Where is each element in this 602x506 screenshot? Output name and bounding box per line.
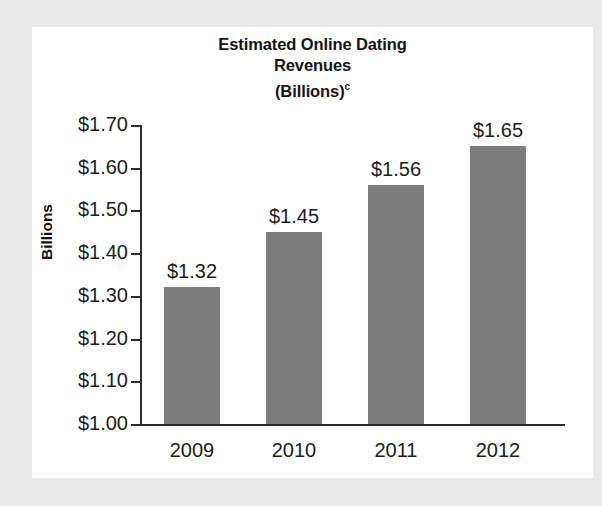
bar-2009[interactable]	[164, 287, 220, 424]
bar-value-label-2010: $1.45	[234, 205, 354, 228]
chart-title-line-2: Revenues	[32, 55, 593, 76]
chart-title-line-1: Estimated Online Dating	[32, 34, 593, 55]
y-tick-label: $1.10	[78, 369, 128, 392]
y-tick-mark	[131, 253, 140, 255]
chart-title-units: (Billions)	[275, 82, 345, 100]
figure-root: Estimated Online Dating Revenues (Billio…	[0, 0, 602, 506]
y-tick-label: $1.30	[78, 284, 128, 307]
plot-area: $1.70 $1.60 $1.50 $1.40 $1.30 $1.20	[140, 125, 563, 424]
chart-title: Estimated Online Dating Revenues (Billio…	[32, 34, 593, 102]
y-tick-label: $1.00	[78, 412, 128, 435]
bar-value-label-2011: $1.56	[336, 158, 456, 181]
y-tick-label: $1.40	[78, 241, 128, 264]
x-tick-label-2012: 2012	[438, 439, 558, 462]
chart-card: Estimated Online Dating Revenues (Billio…	[32, 27, 593, 478]
bar-value-label-2012: $1.65	[438, 119, 558, 142]
y-tick-label: $1.50	[78, 198, 128, 221]
bar-2011[interactable]	[368, 185, 424, 424]
bar-2010[interactable]	[266, 232, 322, 424]
y-tick-mark	[131, 296, 140, 298]
chart-title-line-3: (Billions)c	[32, 76, 593, 102]
bar-value-label-2009: $1.32	[132, 260, 252, 283]
y-axis-title: Billions	[38, 140, 56, 260]
y-tick-label: $1.20	[78, 327, 128, 350]
x-axis-line	[140, 424, 565, 426]
y-tick-mark	[131, 339, 140, 341]
y-tick-mark	[131, 210, 140, 212]
y-tick-mark	[131, 125, 140, 127]
y-tick-mark	[131, 168, 140, 170]
y-tick-label: $1.60	[78, 156, 128, 179]
footnote-marker: c	[345, 81, 350, 92]
y-tick-mark	[131, 381, 140, 383]
bar-2012[interactable]	[470, 146, 526, 424]
y-tick-mark	[131, 424, 140, 426]
y-tick-label: $1.70	[78, 113, 128, 136]
